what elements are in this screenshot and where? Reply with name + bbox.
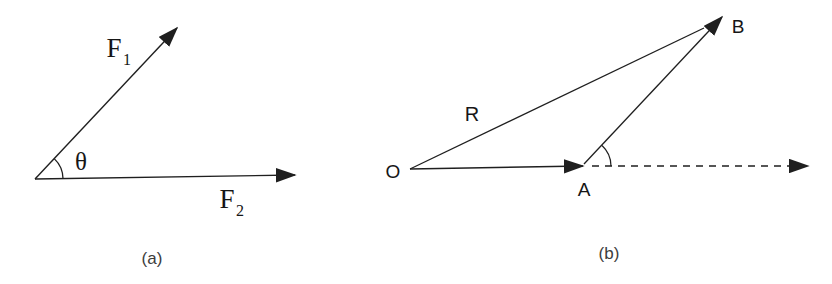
caption-panel-b: (b) xyxy=(599,244,620,263)
angle-theta-arc xyxy=(54,159,63,179)
label-f2: F2 xyxy=(219,184,244,219)
label-point-a: A xyxy=(578,179,591,200)
label-point-b: B xyxy=(732,16,745,37)
label-origin-o: O xyxy=(386,161,401,182)
panel-b: O A B R (b) xyxy=(386,16,808,263)
figure-canvas: F1 F2 θ (a) O A B R (b) xyxy=(0,0,832,284)
label-f1-base: F xyxy=(106,33,121,63)
vector-addition-figure: F1 F2 θ (a) O A B R (b) xyxy=(0,0,832,284)
label-f1-subscript: 1 xyxy=(123,51,131,68)
panel-a: F1 F2 θ (a) xyxy=(35,28,295,268)
label-theta: θ xyxy=(75,148,87,175)
vector-f2-arrow xyxy=(35,175,295,179)
resultant-r-line xyxy=(410,28,704,169)
angle-arc-at-a xyxy=(602,146,611,167)
caption-panel-a: (a) xyxy=(142,249,163,268)
vector-oa-arrow xyxy=(410,166,583,169)
vector-ab-arrow xyxy=(584,17,722,164)
label-resultant-r: R xyxy=(465,103,479,125)
label-f1: F1 xyxy=(106,33,131,68)
label-f2-base: F xyxy=(219,184,234,214)
label-f2-subscript: 2 xyxy=(236,202,244,219)
